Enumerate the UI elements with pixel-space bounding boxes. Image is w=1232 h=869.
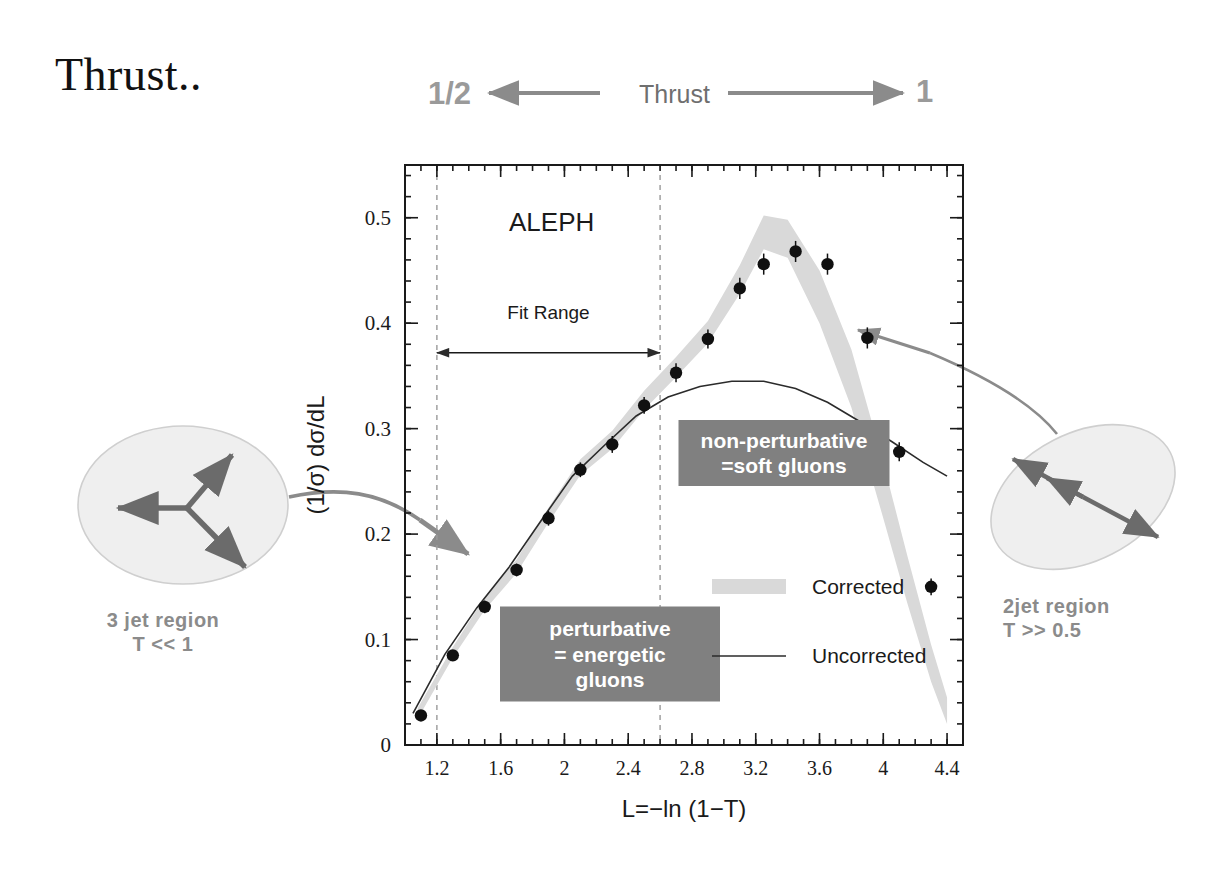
data-point xyxy=(758,258,770,270)
header-center-label: Thrust xyxy=(639,80,710,109)
perturbative-callout-line: = energetic xyxy=(554,643,666,666)
annotation-2jet-region: 2jet region T >> 0.5 xyxy=(1003,594,1232,643)
data-point xyxy=(893,446,905,458)
y-tick-label: 0.5 xyxy=(365,206,391,230)
y-tick-label: 0.4 xyxy=(365,311,392,335)
three-jet-pointer-arrow xyxy=(420,520,468,554)
annotation-3jet-region: 3 jet region T << 1 xyxy=(38,608,288,657)
non-perturbative-callout: non-perturbative=soft gluons xyxy=(679,420,890,486)
two-jet-pointer-line xyxy=(930,353,1057,434)
perturbative-callout-line: gluons xyxy=(576,668,645,691)
header-right-value: 1 xyxy=(916,74,933,110)
x-tick-label: 3.2 xyxy=(743,757,768,779)
perturbative-callout-line: perturbative xyxy=(549,617,670,640)
annotation-3jet-line1: 3 jet region xyxy=(38,608,288,632)
chart-legend: CorrectedUncorrected xyxy=(712,575,926,667)
data-point xyxy=(925,581,937,593)
legend-swatch-corrected xyxy=(712,579,786,594)
experiment-label: ALEPH xyxy=(509,207,594,237)
x-axis-title: L=−ln (1−T) xyxy=(622,795,747,822)
header-left-value: 1/2 xyxy=(428,76,471,112)
x-tick-label: 1.6 xyxy=(488,757,513,779)
data-point xyxy=(542,512,554,524)
page-title: Thrust.. xyxy=(55,48,202,101)
non-perturbative-callout-line: non-perturbative xyxy=(701,429,868,452)
data-point xyxy=(510,564,522,576)
perturbative-callout: perturbative= energeticgluons xyxy=(500,607,720,702)
data-point xyxy=(734,282,746,294)
y-tick-label: 0.2 xyxy=(365,522,391,546)
data-point xyxy=(702,333,714,345)
data-point xyxy=(861,332,873,344)
data-point xyxy=(670,367,682,379)
thrust-distribution-figure: 1.21.622.42.83.23.644.400.10.20.30.40.5L… xyxy=(0,0,1232,869)
non-perturbative-callout-line: =soft gluons xyxy=(721,454,846,477)
data-point xyxy=(606,438,618,450)
x-tick-label: 4 xyxy=(878,757,888,779)
data-point xyxy=(574,464,586,476)
legend-label-uncorrected: Uncorrected xyxy=(812,644,926,667)
slide-canvas: Thrust.. 1/2 Thrust 1 3 jet region T << … xyxy=(0,0,1232,869)
x-tick-label: 1.2 xyxy=(424,757,449,779)
three-jet-ellipse xyxy=(78,426,288,584)
data-point xyxy=(415,709,427,721)
annotation-3jet-line2: T << 1 xyxy=(38,632,288,656)
y-tick-label: 0 xyxy=(381,733,392,757)
data-point xyxy=(479,601,491,613)
data-point xyxy=(789,245,801,257)
y-tick-label: 0.3 xyxy=(365,417,391,441)
plot-area: 1.21.622.42.83.23.644.400.10.20.30.40.5L… xyxy=(302,165,963,822)
x-tick-label: 2.8 xyxy=(679,757,704,779)
legend-label-corrected: Corrected xyxy=(812,575,904,598)
data-point xyxy=(447,649,459,661)
annotation-2jet-line1: 2jet region xyxy=(1003,594,1232,618)
fit-range-label: Fit Range xyxy=(507,302,589,323)
annotation-2jet-line2: T >> 0.5 xyxy=(1003,618,1232,642)
data-point xyxy=(638,399,650,411)
two-jet-event-diagram xyxy=(858,330,1199,599)
x-tick-label: 2 xyxy=(559,757,569,779)
data-point xyxy=(821,258,833,270)
x-tick-label: 2.4 xyxy=(616,757,641,779)
y-axis-title: (1/σ) dσ/dL xyxy=(302,395,329,514)
x-tick-label: 4.4 xyxy=(935,757,960,779)
y-tick-label: 0.1 xyxy=(365,628,391,652)
x-tick-label: 3.6 xyxy=(807,757,832,779)
